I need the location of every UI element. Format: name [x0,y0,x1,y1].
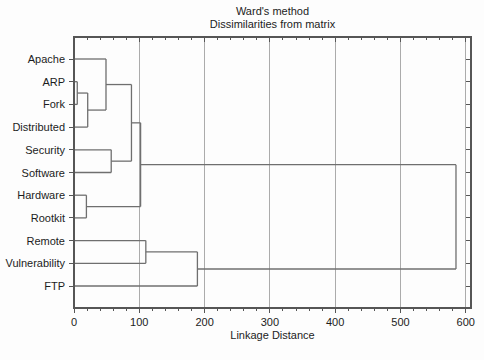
dendrogram-plot: 0100200300400500600ApacheARPForkDistribu… [0,0,484,360]
x-axis-label: Linkage Distance [74,329,471,341]
leaf-label: ARP [42,76,65,88]
leaf-label: FTP [44,280,65,292]
x-tick-label: 0 [71,316,77,328]
leaf-label: Rootkit [31,212,65,224]
dendrogram-figure: Ward's method Dissimilarities from matri… [0,0,484,360]
leaf-label: Vulnerability [5,257,65,269]
leaf-label: Software [22,167,65,179]
leaf-label: Apache [28,53,65,65]
x-tick-label: 600 [457,316,475,328]
leaf-label: Distributed [12,121,65,133]
x-tick-label: 500 [391,316,409,328]
leaf-label: Remote [26,235,65,247]
x-tick-label: 200 [195,316,213,328]
plot-border [74,37,471,308]
leaf-label: Hardware [17,189,65,201]
x-tick-label: 100 [130,316,148,328]
x-tick-label: 400 [326,316,344,328]
leaf-label: Security [25,144,65,156]
x-tick-label: 300 [261,316,279,328]
leaf-label: Fork [43,98,66,110]
